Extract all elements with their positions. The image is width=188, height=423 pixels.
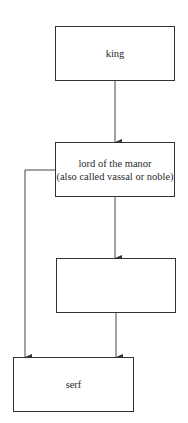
arrow-lord-to-serf xyxy=(25,170,55,357)
node-lord-label-line1: lord of the manor xyxy=(78,157,151,170)
node-serf-label: serf xyxy=(66,378,82,391)
node-serf: serf xyxy=(13,357,134,412)
node-lord-label-line2: (also called vassal or noble) xyxy=(56,170,173,183)
node-lord-of-the-manor: lord of the manor (also called vassal or… xyxy=(55,142,175,197)
node-king: king xyxy=(55,26,175,81)
node-blank xyxy=(56,258,176,313)
node-king-label: king xyxy=(106,47,125,60)
